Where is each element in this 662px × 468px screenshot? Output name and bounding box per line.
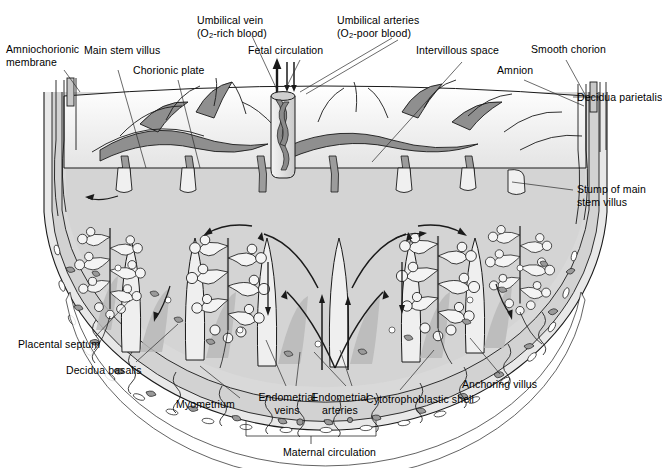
label-decidua-basalis: Decidua basalis (66, 364, 142, 377)
label-decidua-parietalis: Decidua parietalis (577, 91, 662, 104)
label-stump-of-main-stem-villus: Stump of mainstem villus (577, 183, 646, 208)
label-umbilical-arteries: Umbilical arteries(O2-poor blood) (337, 14, 419, 42)
label-umbilical-vein: Umbilical vein(O2-rich blood) (197, 14, 267, 42)
label-amnion: Amnion (497, 64, 533, 77)
label-anchoring-villus: Anchoring villus (462, 378, 537, 391)
label-myometrium: Myometrium (176, 398, 235, 411)
label-fetal-circulation: Fetal circulation (248, 44, 323, 57)
umbilical-cord (271, 58, 297, 178)
label-chorionic-plate: Chorionic plate (133, 64, 205, 77)
label-amniochorionic-membrane: Amniochorionicmembrane (6, 43, 79, 68)
label-maternal-circulation: Maternal circulation (283, 446, 376, 459)
label-cytotrophoblastic-shell: Cytotrophoblastic shell (366, 393, 474, 406)
label-main-stem-villus: Main stem villus (84, 44, 160, 57)
label-placental-septum: Placental septum (18, 338, 100, 351)
label-intervillous-space: Intervillous space (416, 44, 499, 57)
label-smooth-chorion: Smooth chorion (531, 43, 606, 56)
